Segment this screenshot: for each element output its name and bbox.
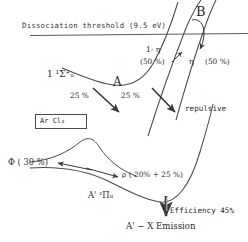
emission-label: A' − X Emission [126,222,196,231]
eta-label: η [189,58,194,66]
rho-arrow [86,168,118,177]
branch-left-percent-label: 25 % [70,92,89,99]
upper-state-curve [62,2,178,85]
point-a-label: A [113,76,122,88]
one-minus-eta-percent-label: (50 %) [140,58,165,65]
one-minus-eta-arrow [172,52,182,62]
rho-channel-label: ρ ( 20% + 25 %) [122,171,183,178]
branch-right-percent-label: 25 % [121,92,140,99]
diagram-canvas: Dissociation threshold (9.5 eV) B 1- η (… [0,0,248,242]
repulsive-label: repulsive [185,105,226,113]
one-minus-eta-label: 1- η [146,46,160,54]
eta-percent-label: (50 %) [205,58,230,65]
dissociation-threshold-line [30,34,248,36]
dissociation-threshold-label: Dissociation threshold (9.5 eV) [22,22,166,29]
efficiency-label: Efficiency 45% [170,207,234,215]
branch-right-arrow [152,88,175,112]
species-box-label: Ar Cl₂ [40,118,65,125]
upper-state-label: 1 ¹Σ⁺ᵤ [47,70,74,79]
branch-left-arrow [93,88,119,112]
state-b-label: B [196,5,206,18]
lower-state-label: A' ²Πᵤ [88,191,113,199]
phi-channel-label: Φ ( 30 %) [8,158,48,166]
